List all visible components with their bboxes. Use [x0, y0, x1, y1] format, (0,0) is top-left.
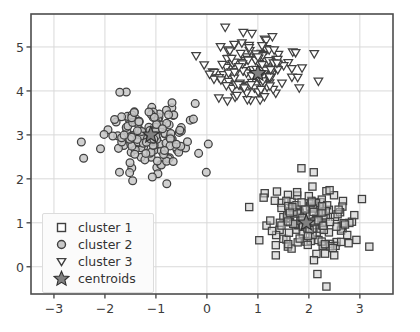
data-point: [351, 212, 358, 219]
data-point: [191, 100, 199, 108]
legend-label-cluster-1: cluster 1: [78, 220, 132, 235]
data-point: [304, 241, 311, 248]
data-point: [159, 125, 167, 133]
legend-item-cluster-1: cluster 1: [48, 219, 146, 236]
data-point: [321, 250, 328, 257]
data-point: [344, 231, 351, 238]
data-point: [341, 221, 348, 228]
data-point: [165, 111, 173, 119]
data-point: [294, 189, 301, 196]
data-point: [184, 138, 192, 146]
data-point: [271, 197, 278, 204]
data-point: [77, 138, 85, 146]
x-tick-label: −2: [96, 301, 114, 316]
chart-legend: cluster 1 cluster 2 cluster 3: [42, 213, 154, 293]
x-tick-label: −3: [45, 301, 63, 316]
data-point: [310, 208, 317, 215]
data-point: [285, 241, 292, 248]
x-tick-label: 3: [356, 301, 364, 316]
data-point: [308, 198, 315, 205]
data-point: [111, 116, 119, 124]
circle-marker-icon: [48, 236, 74, 253]
data-point: [100, 131, 108, 139]
data-point: [302, 206, 309, 213]
y-tick-label: 0: [8, 259, 24, 274]
data-point: [168, 99, 176, 107]
data-point: [129, 177, 137, 185]
data-point: [318, 203, 325, 210]
data-point: [176, 126, 184, 134]
data-point: [326, 187, 333, 194]
y-tick-label: 1: [8, 215, 24, 230]
data-point: [116, 88, 124, 96]
data-point: [267, 217, 274, 224]
data-point: [285, 229, 292, 236]
data-point: [353, 236, 360, 243]
data-point: [126, 169, 134, 177]
data-point: [148, 173, 156, 181]
data-point: [278, 204, 285, 211]
data-point: [272, 242, 279, 249]
legend-item-centroids: centroids: [48, 270, 146, 287]
x-tick-label: 1: [254, 301, 262, 316]
data-point: [135, 118, 143, 126]
data-point: [273, 188, 280, 195]
y-tick-label: 2: [8, 171, 24, 186]
data-point: [172, 140, 180, 148]
data-point: [161, 147, 169, 155]
data-point: [131, 150, 139, 158]
y-tick-label: 4: [8, 83, 24, 98]
data-point: [338, 238, 345, 245]
data-point: [298, 199, 305, 206]
data-point: [120, 131, 128, 139]
legend-label-cluster-3: cluster 3: [78, 254, 132, 269]
data-point: [145, 108, 153, 116]
data-point: [310, 257, 317, 264]
data-point: [331, 252, 338, 259]
legend-item-cluster-2: cluster 2: [48, 236, 146, 253]
data-point: [134, 127, 142, 135]
data-point: [272, 252, 279, 259]
data-point: [345, 240, 352, 247]
data-point: [321, 241, 328, 248]
data-point: [335, 206, 342, 213]
data-point: [298, 165, 305, 172]
data-point: [358, 195, 365, 202]
data-point: [195, 149, 203, 157]
data-point: [314, 270, 321, 277]
data-point: [153, 157, 161, 165]
data-point: [284, 218, 291, 225]
data-point: [97, 145, 105, 153]
data-point: [116, 168, 124, 176]
legend-item-cluster-3: cluster 3: [48, 253, 146, 270]
x-tick-label: 2: [305, 301, 313, 316]
data-point: [130, 109, 138, 117]
data-point: [286, 209, 293, 216]
legend-label-centroids: centroids: [78, 271, 136, 286]
triangle-down-marker-icon: [48, 253, 74, 270]
data-point: [323, 283, 330, 290]
data-point: [268, 227, 275, 234]
data-point: [126, 159, 134, 167]
legend-label-cluster-2: cluster 2: [78, 237, 132, 252]
data-point: [142, 150, 150, 158]
square-marker-icon: [48, 219, 74, 236]
y-tick-label: 3: [8, 127, 24, 142]
data-point: [190, 115, 198, 123]
data-point: [260, 194, 267, 201]
data-point: [202, 168, 210, 176]
data-point: [169, 158, 177, 166]
scatter-plot-figure: −3−2−10123 012345 cluster 1 cluster 2: [0, 0, 420, 332]
data-point: [80, 154, 88, 162]
x-tick-label: 0: [203, 301, 211, 316]
star-marker-icon: [48, 270, 74, 287]
data-point: [256, 237, 263, 244]
data-point: [296, 235, 303, 242]
data-point: [329, 244, 336, 251]
data-point: [163, 180, 171, 188]
data-point: [309, 183, 316, 190]
data-point: [128, 133, 136, 141]
x-tick-label: −1: [147, 301, 165, 316]
data-point: [310, 169, 317, 176]
y-tick-label: 5: [8, 39, 24, 54]
